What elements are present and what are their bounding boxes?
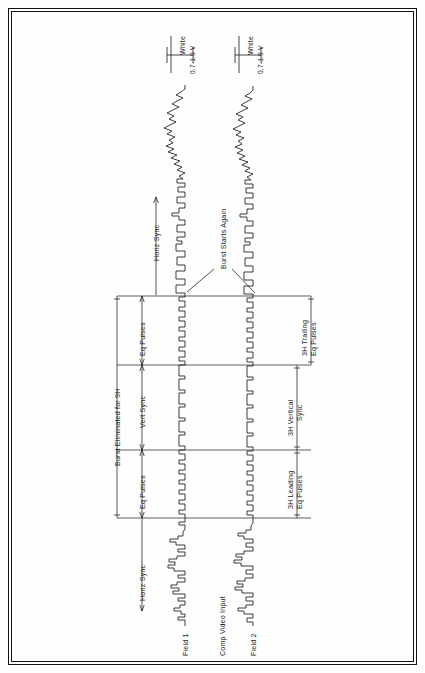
label-field-1: Field 1 — [182, 633, 191, 656]
label-field-2: Field 2 — [250, 633, 259, 656]
label-3h-leading-line1: 3H Leading — [287, 471, 296, 509]
label-3h-leading-line2: Eq Pulses — [296, 475, 305, 509]
trace-field1 — [168, 518, 185, 626]
trace-field1-leading-eq — [179, 450, 185, 518]
burst-starts-again-leaders — [187, 269, 255, 293]
trace-field1-video — [164, 89, 185, 187]
label-horiz-sync-top: Horiz Sync — [153, 225, 162, 261]
waveform-svg — [11, 11, 414, 662]
trace-field2-vert-sync — [247, 366, 253, 451]
label-3h-vertical-line2: Sync — [296, 404, 305, 421]
label-eq-pulses-leading: Eq Pulses — [139, 475, 148, 509]
trace-field1-trailing-eq — [179, 297, 185, 365]
trace-field2-video — [233, 90, 253, 188]
trace-field2-leading-eq — [247, 451, 253, 519]
trace-field2-trailing-eq — [247, 298, 253, 366]
trace-field1-burst-return — [172, 187, 185, 297]
label-3h-vertical-line1: 3H Vertical — [287, 399, 296, 436]
label-horiz-sync-bottom: Horiz Sync — [139, 565, 148, 601]
label-burst-eliminated: Burst Eliminated for 9H — [114, 388, 123, 466]
label-3h-trailing-line1: 3H Trailing — [301, 320, 310, 356]
label-white-field2: White — [247, 36, 256, 55]
label-white-volts-field2: 0.7-1.0 V — [257, 45, 266, 74]
label-3h-trailing-line2: Eq Pulses — [310, 322, 319, 356]
label-comp-video-input: Comp Video Input — [219, 596, 228, 656]
label-burst-starts-again: Burst Starts Again — [220, 209, 229, 269]
label-white-field1: White — [179, 36, 188, 55]
diagram-page: White 0.7-1.0 V White 0.7-1.0 V Horiz Sy… — [0, 0, 425, 673]
trace-field1-vert-sync — [179, 365, 185, 450]
label-eq-pulses-trailing: Eq Pulses — [139, 322, 148, 356]
trace-field2-burst-return — [240, 188, 253, 298]
trace-field2 — [234, 519, 253, 626]
label-vert-sync: Vert Sync — [139, 396, 148, 428]
label-white-volts-field1: 0.7-1.0 V — [189, 45, 198, 74]
waveform-plot: White 0.7-1.0 V White 0.7-1.0 V Horiz Sy… — [11, 11, 414, 662]
